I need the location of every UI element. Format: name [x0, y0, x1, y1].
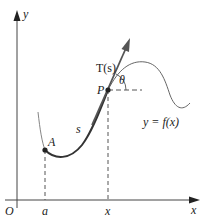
angle-label: θ: [119, 73, 125, 87]
point-p-label: P: [96, 83, 105, 97]
x-axis-label: x: [190, 203, 197, 217]
tangent-arrow-icon: [122, 38, 131, 52]
tangent-label: T(s): [96, 61, 116, 75]
arc-length-diagram: y x O a x A P s T(s) θ y = f(x): [0, 0, 202, 221]
tick-label-x: x: [104, 204, 111, 218]
curve-label: y = f(x): [142, 115, 179, 129]
tick-label-a: a: [42, 204, 48, 218]
point-a: [42, 147, 47, 152]
curve-start: [38, 112, 45, 150]
arc-length-label: s: [76, 122, 81, 136]
point-p: [105, 87, 110, 92]
point-a-label: A: [47, 135, 56, 149]
y-axis-arrow-icon: [14, 10, 21, 21]
origin-label: O: [5, 204, 14, 218]
y-axis-label: y: [22, 7, 29, 21]
